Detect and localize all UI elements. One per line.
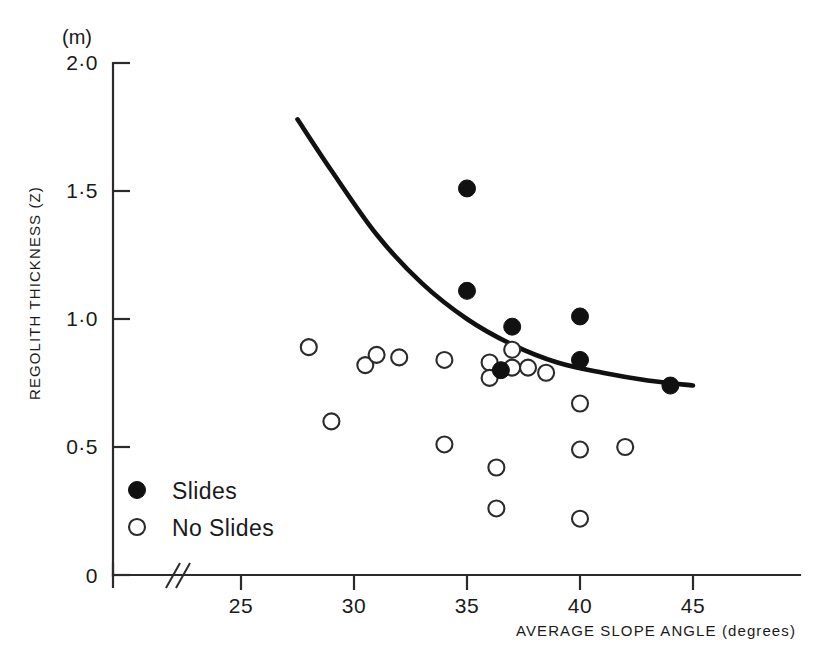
data-point-slides [504,318,521,335]
legend-marker-slides [129,482,146,499]
data-point-slides [459,180,476,197]
data-point-slides [662,377,679,394]
x-tick-label-25: 25 [229,594,253,617]
data-point-no-slides [323,413,339,429]
legend-marker-no-slides [129,519,145,535]
x-tick-label-30: 30 [342,594,366,617]
y-axis-ticks [113,63,130,575]
y-tick-label-1-0: 1·0 [66,307,98,330]
x-tick-label-45: 45 [681,594,705,617]
y-tick-label-0-5: 0·5 [66,435,98,458]
data-point-no-slides [436,436,452,452]
y-tick-label-0: 0 [86,564,98,587]
data-point-slides [492,362,509,379]
data-point-no-slides [572,511,588,527]
data-point-no-slides [369,347,385,363]
x-axis-title: AVERAGE SLOPE ANGLE (degrees) [516,622,796,639]
scatter-plot-svg: (m) REGOLITH THICKNESS (Z) 2·0 1·5 1·0 0… [0,0,840,657]
data-point-no-slides [436,352,452,368]
data-point-slides [572,308,589,325]
data-point-no-slides [572,442,588,458]
legend-label-no-slides: No Slides [172,515,274,541]
y-tick-label-1-5: 1·5 [66,179,98,202]
data-point-no-slides [572,395,588,411]
data-point-no-slides [520,360,536,376]
legend: Slides No Slides [129,478,275,541]
data-point-no-slides [391,349,407,365]
data-point-slides [572,351,589,368]
y-axis-unit-label: (m) [62,26,92,48]
data-point-no-slides [301,339,317,355]
data-point-no-slides [488,500,504,516]
x-tick-label-40: 40 [568,594,592,617]
data-point-no-slides [617,439,633,455]
data-point-no-slides [488,459,504,475]
x-tick-label-35: 35 [455,594,479,617]
data-point-no-slides [504,342,520,358]
data-point-slides [459,282,476,299]
chart-figure: (m) REGOLITH THICKNESS (Z) 2·0 1·5 1·0 0… [0,0,840,657]
y-tick-label-2-0: 2·0 [66,51,98,74]
legend-label-slides: Slides [172,478,237,504]
x-axis-ticks [241,575,693,590]
y-axis-title: REGOLITH THICKNESS (Z) [26,186,43,400]
trend-curve [298,119,694,385]
data-point-no-slides [538,365,554,381]
